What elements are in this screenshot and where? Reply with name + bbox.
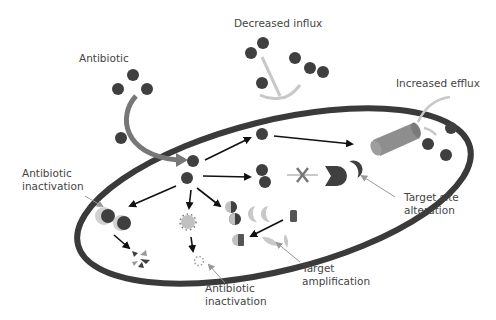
antibiotic-molecules — [112, 69, 153, 144]
target-alteration-pointer — [362, 176, 395, 197]
resistance-mechanisms-diagram: Antibiotic Decreased influx Increased ef… — [0, 0, 496, 320]
internal-molecules — [181, 128, 271, 188]
label-increased-efflux: Increased efflux — [396, 77, 480, 90]
blocked-binding — [287, 158, 365, 186]
inactivating-enzyme — [95, 207, 131, 231]
diagram-canvas — [0, 0, 496, 320]
degraded-antibiotic — [132, 250, 150, 268]
efflux-pump — [368, 121, 423, 157]
influx-blocked-arrow — [262, 57, 280, 96]
target-amplification-shapes — [225, 201, 297, 248]
label-target-site-alteration: Target site alteration — [404, 191, 459, 217]
influx-molecules — [245, 37, 329, 89]
label-antibiotic-inactivation-bottom: Antibiotic inactivation — [205, 282, 267, 308]
label-target-amplification: Target amplification — [302, 262, 370, 288]
label-antibiotic: Antibiotic — [79, 52, 129, 65]
label-decreased-influx: Decreased influx — [234, 17, 322, 30]
label-antibiotic-inactivation-left: Antibiotic inactivation — [22, 167, 84, 193]
